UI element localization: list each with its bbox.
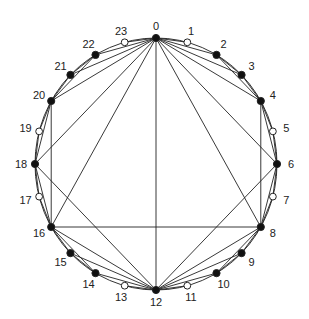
filled-node-6 (273, 160, 280, 167)
filled-node-14 (92, 270, 99, 277)
node-label-10: 10 (217, 278, 229, 290)
edge-0-8 (156, 38, 261, 227)
node-label-2: 2 (220, 38, 226, 50)
circular-graph-diagram: 01234567891011121314151617181920212223 (0, 0, 309, 319)
node-label-13: 13 (115, 291, 127, 303)
node-label-14: 14 (82, 278, 94, 290)
edge-0-16 (51, 38, 156, 227)
node-label-21: 21 (54, 60, 66, 72)
edge-21-22 (70, 55, 95, 75)
node-label-17: 17 (19, 194, 31, 206)
edge-15-16 (51, 227, 70, 253)
filled-node-20 (48, 97, 55, 104)
edge-12-8 (156, 227, 261, 290)
edge-8-9 (242, 227, 261, 253)
hollow-node-17 (36, 193, 43, 200)
node-label-9: 9 (248, 256, 254, 268)
filled-node-8 (257, 223, 264, 230)
node-label-23: 23 (115, 25, 127, 37)
edge-14-15 (70, 253, 95, 273)
node-label-16: 16 (33, 227, 45, 239)
edge-0-3 (156, 38, 242, 75)
hollow-node-23 (121, 39, 128, 46)
node-label-5: 5 (283, 122, 289, 134)
filled-node-10 (213, 270, 220, 277)
node-label-12: 12 (150, 296, 162, 308)
edge-12-16 (51, 227, 156, 290)
node-label-11: 11 (185, 291, 196, 303)
node-label-3: 3 (248, 60, 254, 72)
labels-group: 01234567891011121314151617181920212223 (15, 20, 294, 308)
edge-19-20 (39, 101, 51, 131)
edge-9-10 (217, 253, 242, 273)
edge-16-17 (39, 197, 51, 227)
node-label-15: 15 (54, 256, 66, 268)
edge-0-20 (51, 38, 156, 101)
filled-node-22 (92, 51, 99, 58)
edge-7-8 (261, 197, 273, 227)
hollow-node-7 (269, 193, 276, 200)
edge-3-4 (242, 75, 261, 101)
filled-node-2 (213, 51, 220, 58)
hollow-node-11 (184, 282, 191, 289)
filled-node-4 (257, 97, 264, 104)
diagram-canvas: 01234567891011121314151617181920212223 (0, 0, 309, 319)
node-label-6: 6 (288, 158, 294, 170)
edge-0-4 (156, 38, 261, 101)
node-label-22: 22 (82, 38, 94, 50)
edge-4-5 (261, 101, 273, 131)
filled-node-3 (238, 71, 245, 78)
node-label-20: 20 (33, 89, 45, 101)
node-label-4: 4 (270, 89, 276, 101)
filled-node-18 (31, 160, 38, 167)
node-label-18: 18 (15, 158, 27, 170)
node-label-0: 0 (153, 20, 159, 32)
filled-node-0 (152, 34, 159, 41)
node-label-19: 19 (19, 122, 31, 134)
filled-node-15 (67, 249, 74, 256)
filled-node-21 (67, 71, 74, 78)
filled-node-12 (152, 286, 159, 293)
node-label-1: 1 (188, 25, 194, 37)
node-label-7: 7 (283, 194, 289, 206)
hollow-node-19 (36, 128, 43, 135)
hollow-node-13 (121, 282, 128, 289)
hollow-node-5 (269, 128, 276, 135)
hollow-node-1 (184, 39, 191, 46)
node-label-8: 8 (270, 227, 276, 239)
filled-node-16 (48, 223, 55, 230)
edge-2-3 (217, 55, 242, 75)
edge-20-21 (51, 75, 70, 101)
filled-node-9 (238, 249, 245, 256)
